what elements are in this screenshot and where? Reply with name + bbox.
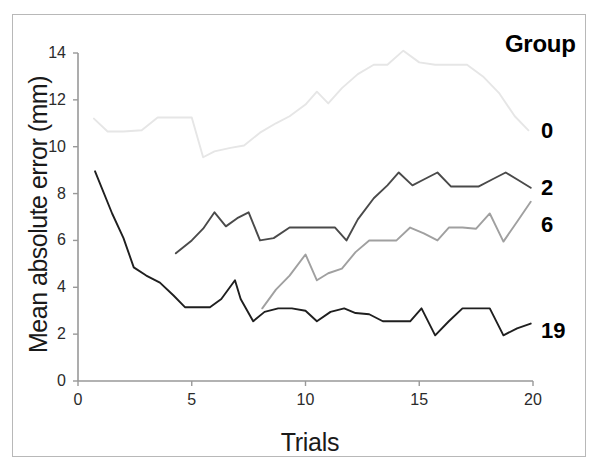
x-tick-label: 5 — [177, 391, 207, 409]
y-axis-title: Mean absolute error (mm) — [24, 65, 53, 365]
legend-label-group-19[interactable]: 19 — [541, 318, 565, 344]
chart-canvas: 02468101214 05101520 Mean absolute error… — [0, 0, 603, 475]
x-tick-label: 10 — [291, 391, 321, 409]
series-line-group-19 — [95, 171, 531, 335]
data-series-group — [94, 51, 531, 336]
series-line-group-6 — [262, 202, 530, 309]
series-line-group-2 — [176, 172, 531, 253]
x-tick-label: 0 — [63, 391, 93, 409]
legend-title: Group — [505, 30, 576, 58]
x-tick-label: 20 — [518, 391, 548, 409]
x-axis-title: Trials — [170, 428, 450, 457]
legend-label-group-6[interactable]: 6 — [541, 212, 553, 238]
legend-label-group-0[interactable]: 0 — [541, 118, 553, 144]
y-tick-label: 14 — [36, 44, 66, 62]
series-line-group-0 — [94, 51, 529, 158]
y-tick-label: 0 — [36, 372, 66, 390]
legend-label-group-2[interactable]: 2 — [541, 175, 553, 201]
x-tick-label: 15 — [404, 391, 434, 409]
